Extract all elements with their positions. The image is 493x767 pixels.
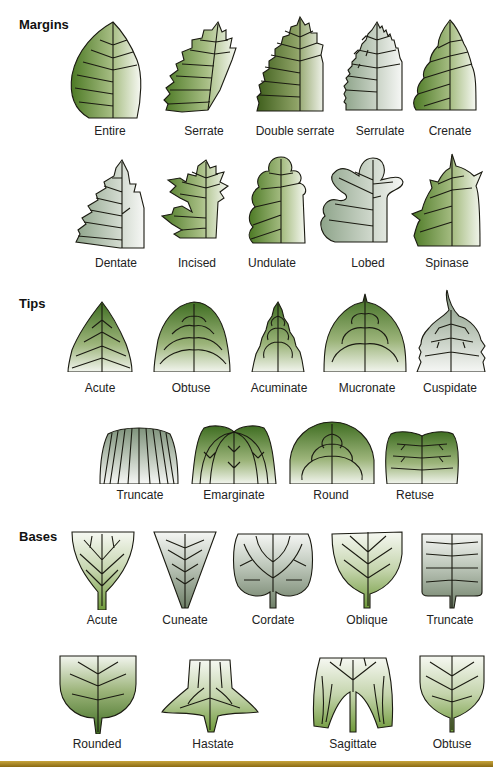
- label-base-cuneate: Cuneate: [162, 613, 207, 627]
- incised-leaf-icon: [158, 158, 233, 243]
- label-base-acute: Acute: [87, 613, 118, 627]
- label-double-serrate: Double serrate: [256, 124, 335, 138]
- cuneate-base-icon: [152, 530, 218, 610]
- round-tip-icon: [288, 420, 376, 484]
- label-serrate: Serrate: [184, 124, 223, 138]
- label-tip-retuse: Retuse: [396, 488, 434, 502]
- spinase-leaf-icon: [408, 150, 488, 250]
- acute-tip-icon: [66, 300, 134, 372]
- section-title-margins: Margins: [19, 17, 69, 32]
- leaf-tip-round: [288, 420, 376, 484]
- hastate-base-icon: [160, 658, 260, 734]
- truncate-tip-icon: [98, 422, 180, 484]
- leaf-margin-serrulate: [340, 18, 410, 116]
- obtuse-tip-icon: [152, 300, 232, 372]
- leaf-tip-emarginate: [190, 422, 278, 484]
- cordate-base-icon: [230, 530, 316, 610]
- leaf-margin-double-serrate: [255, 15, 330, 115]
- label-tip-cuspidate: Cuspidate: [423, 381, 477, 395]
- leaf-base-hastate: [160, 658, 260, 734]
- label-base-oblique: Oblique: [346, 613, 387, 627]
- oblique-base-icon: [330, 530, 404, 610]
- leaf-base-oblique: [330, 530, 404, 610]
- dentate-leaf-icon: [72, 158, 147, 253]
- leaf-base-cuneate: [152, 530, 218, 610]
- label-base-cordate: Cordate: [252, 613, 295, 627]
- label-entire: Entire: [94, 124, 125, 138]
- label-serrulate: Serrulate: [356, 124, 405, 138]
- label-undulate: Undulate: [248, 256, 296, 270]
- leaf-base-sagittate: [312, 656, 394, 734]
- label-tip-mucronate: Mucronate: [339, 381, 396, 395]
- leaf-margin-crenate: [410, 18, 485, 116]
- cuspidate-tip-icon: [415, 288, 487, 372]
- leaf-margin-incised: [158, 158, 233, 243]
- leaf-base-rounded: [58, 654, 138, 734]
- leaf-margin-dentate: [72, 158, 147, 253]
- emarginate-tip-icon: [190, 422, 278, 484]
- rounded-base-icon: [58, 654, 138, 734]
- label-tip-obtuse: Obtuse: [172, 381, 211, 395]
- leaf-margin-spinase: [408, 150, 488, 250]
- leaf-tip-mucronate: [320, 292, 410, 372]
- leaf-tip-truncate: [98, 422, 180, 484]
- label-tip-round: Round: [313, 488, 348, 502]
- acute-base-icon: [70, 530, 136, 610]
- undulate-leaf-icon: [245, 153, 315, 248]
- retuse-tip-icon: [383, 428, 461, 484]
- label-dentate: Dentate: [95, 256, 137, 270]
- serrate-leaf-icon: [160, 20, 240, 115]
- leaf-base-obtuse: [418, 654, 486, 734]
- section-title-tips: Tips: [19, 296, 46, 311]
- label-tip-acute: Acute: [85, 381, 116, 395]
- entire-leaf-icon: [65, 20, 145, 120]
- sagittate-base-icon: [312, 656, 394, 734]
- label-base-hastate: Hastate: [192, 737, 233, 751]
- crenate-leaf-icon: [410, 18, 485, 116]
- section-title-bases: Bases: [19, 529, 57, 544]
- lobed-leaf-icon: [315, 150, 410, 245]
- label-crenate: Crenate: [429, 124, 472, 138]
- label-base-truncate: Truncate: [427, 613, 474, 627]
- leaf-base-acute: [70, 530, 136, 610]
- label-base-rounded: Rounded: [73, 737, 122, 751]
- leaf-tip-acute: [66, 300, 134, 372]
- leaf-margin-undulate: [245, 153, 315, 248]
- label-lobed: Lobed: [351, 256, 384, 270]
- mucronate-tip-icon: [320, 292, 410, 372]
- label-tip-acuminate: Acuminate: [251, 381, 308, 395]
- leaf-base-truncate: [418, 530, 486, 610]
- truncate-base-icon: [418, 530, 486, 610]
- leaf-tip-acuminate: [250, 300, 306, 372]
- acuminate-tip-icon: [250, 300, 306, 372]
- label-spinase: Spinase: [425, 256, 468, 270]
- bottom-border: [0, 761, 493, 767]
- leaf-tip-obtuse: [152, 300, 232, 372]
- label-tip-emarginate: Emarginate: [203, 488, 264, 502]
- leaf-margin-lobed: [315, 150, 410, 245]
- label-incised: Incised: [178, 256, 216, 270]
- label-base-obtuse: Obtuse: [433, 737, 472, 751]
- obtuse-base-icon: [418, 654, 486, 734]
- leaf-tip-cuspidate: [415, 288, 487, 372]
- leaf-margin-entire: [65, 20, 145, 120]
- leaf-margin-serrate: [160, 20, 240, 115]
- serrulate-leaf-icon: [340, 18, 410, 116]
- leaf-tip-retuse: [383, 428, 461, 484]
- label-base-sagittate: Sagittate: [329, 737, 376, 751]
- double-serrate-leaf-icon: [255, 15, 330, 115]
- leaf-base-cordate: [230, 530, 316, 610]
- label-tip-truncate: Truncate: [117, 488, 164, 502]
